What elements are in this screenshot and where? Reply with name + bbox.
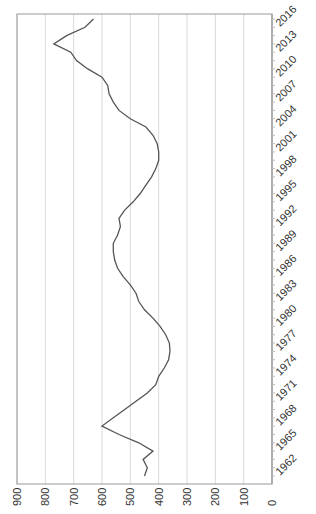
x-tick-label: 1971 [273,377,299,403]
x-tick-label: 1989 [273,227,299,253]
y-tick-label: 500 [124,488,136,506]
line-chart: 0100200300400500600700800900196219651968… [0,0,316,514]
x-tick-label: 1986 [273,252,299,278]
y-tick-label: 0 [266,500,278,506]
y-tick-label: 400 [153,488,165,506]
y-tick-label: 600 [96,488,108,506]
x-tick-label: 2001 [273,128,299,154]
x-tick-label: 1965 [273,427,299,453]
y-tick-label: 800 [39,488,51,506]
x-tick-label: 1962 [273,452,299,478]
plot-border [17,14,272,484]
y-tick-label: 300 [181,488,193,506]
x-tick-label: 2007 [273,78,299,104]
y-tick-label: 200 [209,488,221,506]
y-tick-label: 900 [11,488,23,506]
x-tick-label: 1974 [273,352,299,378]
y-tick-label: 700 [68,488,80,506]
x-tick-label: 1977 [273,327,299,353]
rotated-chart: 0100200300400500600700800900196219651968… [0,0,316,514]
x-tick-label: 2013 [273,28,299,54]
x-tick-label: 1968 [273,402,299,428]
x-tick-label: 2004 [273,103,299,129]
x-tick-label: 2016 [273,3,299,29]
x-tick-label: 1992 [273,202,299,228]
x-tick-label: 1980 [273,302,299,328]
x-tick-label: 1983 [273,277,299,303]
x-tick-label: 1995 [273,177,299,203]
data-line [54,19,170,476]
x-tick-label: 2010 [273,53,299,79]
y-tick-label: 100 [238,488,250,506]
x-tick-label: 1998 [273,152,299,178]
